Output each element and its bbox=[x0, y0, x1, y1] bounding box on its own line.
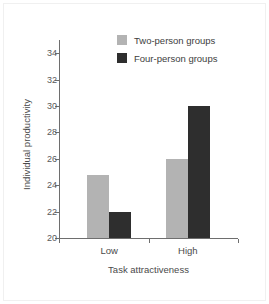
legend-swatch-2 bbox=[117, 53, 127, 63]
legend-item-2: Four-person groups bbox=[117, 50, 217, 66]
x-tick-1 bbox=[149, 239, 150, 243]
chart-legend: Two-person groupsFour-person groups bbox=[117, 32, 217, 68]
bar-low-series-2 bbox=[109, 212, 131, 238]
y-tick-label-20: 20 bbox=[47, 234, 57, 243]
y-tick-label-22: 22 bbox=[47, 208, 57, 217]
x-tick-0 bbox=[59, 239, 60, 243]
bar-high-series-1 bbox=[166, 159, 188, 238]
legend-label-1: Two-person groups bbox=[134, 35, 215, 46]
legend-label-2: Four-person groups bbox=[134, 53, 217, 64]
legend-swatch-1 bbox=[117, 35, 127, 45]
y-tick-label-28: 28 bbox=[47, 128, 57, 137]
x-axis-title: Task attractiveness bbox=[59, 264, 238, 275]
y-tick-label-26: 26 bbox=[47, 155, 57, 164]
bar-low-series-1 bbox=[87, 175, 109, 238]
x-tick-label-high: High bbox=[158, 245, 218, 256]
bar-high-series-2 bbox=[188, 106, 210, 238]
x-tick-2 bbox=[238, 239, 239, 243]
plot-area: 2022242628303234 LowHigh Individual prod… bbox=[0, 0, 269, 304]
y-tick-label-32: 32 bbox=[47, 76, 57, 85]
y-axis-line bbox=[59, 40, 60, 239]
y-tick-label-34: 34 bbox=[47, 49, 57, 58]
chart-figure: 2022242628303234 LowHigh Individual prod… bbox=[0, 0, 269, 304]
x-tick-label-low: Low bbox=[79, 245, 139, 256]
y-tick-label-24: 24 bbox=[47, 181, 57, 190]
y-axis-title: Individual productivity bbox=[21, 70, 32, 220]
legend-item-1: Two-person groups bbox=[117, 32, 217, 48]
y-tick-label-30: 30 bbox=[47, 102, 57, 111]
